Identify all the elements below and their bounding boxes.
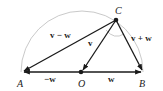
vector-v-minus-w <box>24 20 116 71</box>
label-v-minus-w: v − w <box>50 30 71 40</box>
vector-diagram: C A O B v − w v v + w −w w <box>0 0 163 91</box>
label-C: C <box>115 5 122 16</box>
label-O: O <box>78 78 85 89</box>
vector-v-plus-w <box>116 20 142 70</box>
label-B: B <box>139 78 145 89</box>
label-v-plus-w: v + w <box>131 33 152 43</box>
label-A: A <box>16 78 24 89</box>
label-v: v <box>88 38 93 48</box>
point-C <box>114 18 119 23</box>
point-O <box>79 70 84 75</box>
label-w: w <box>108 74 115 84</box>
label-minus-w: −w <box>44 74 56 84</box>
